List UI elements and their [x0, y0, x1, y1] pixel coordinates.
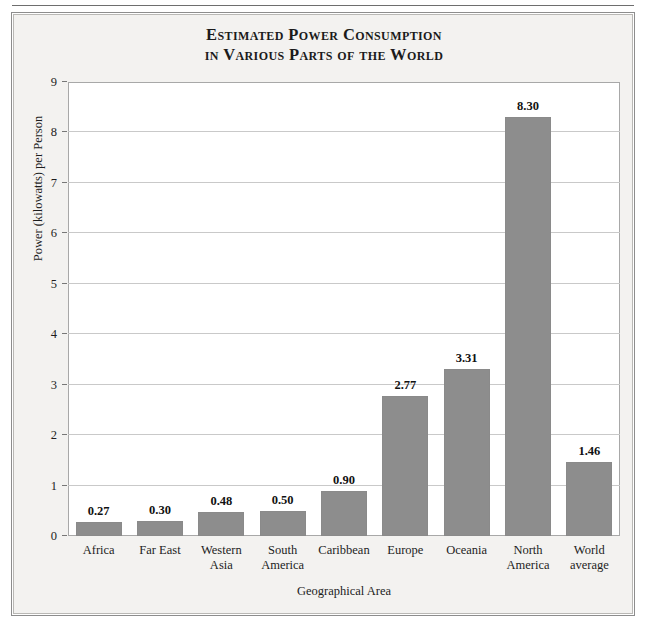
- x-axis-title: Geographical Area: [68, 584, 620, 599]
- x-axis-tick-label-line: America: [252, 558, 313, 573]
- x-axis-tick-label: Africa: [68, 543, 129, 558]
- chart-title-line-1: Estimated Power Consumption: [12, 25, 636, 45]
- bar-value-label: 2.77: [375, 378, 436, 393]
- y-axis-tick-label: 1: [51, 478, 57, 493]
- bar[interactable]: [505, 117, 551, 536]
- y-axis-tick-mark: [62, 535, 67, 536]
- y-axis-tick-mark: [62, 333, 67, 334]
- bars-layer: 0.27Africa0.30Far East0.48WesternAsia0.5…: [68, 82, 620, 536]
- bar[interactable]: [566, 462, 612, 536]
- x-axis-tick-label-line: World: [559, 543, 620, 558]
- bar[interactable]: [321, 491, 367, 536]
- bar[interactable]: [260, 511, 306, 536]
- x-axis-tick-label-line: average: [559, 558, 620, 573]
- bar-slot: 1.46Worldaverage: [559, 82, 620, 536]
- y-axis-tick-mark: [62, 232, 67, 233]
- y-axis-tick-mark: [62, 131, 67, 132]
- x-axis-tick-label: WesternAsia: [191, 543, 252, 573]
- y-axis-tick-label: 8: [51, 125, 57, 140]
- bar-value-label: 0.30: [129, 503, 190, 518]
- bar[interactable]: [444, 369, 490, 536]
- figure-frame: Estimated Power Consumption in Various P…: [11, 12, 635, 616]
- x-axis-tick-label-line: South: [252, 543, 313, 558]
- y-axis-tick-mark: [62, 485, 67, 486]
- x-axis-tick-label: Far East: [129, 543, 190, 558]
- page-top-rule: [12, 5, 634, 6]
- bar[interactable]: [198, 512, 244, 536]
- chart-title: Estimated Power Consumption in Various P…: [12, 25, 636, 65]
- bar-value-label: 1.46: [559, 444, 620, 459]
- y-axis-tick-mark: [62, 182, 67, 183]
- x-axis-tick-label-line: Caribbean: [313, 543, 374, 558]
- x-axis-tick-label: Caribbean: [313, 543, 374, 558]
- bar-slot: 3.31Oceania: [436, 82, 497, 536]
- x-axis-tick-label: Oceania: [436, 543, 497, 558]
- bar-value-label: 0.27: [68, 504, 129, 519]
- bar[interactable]: [76, 522, 122, 536]
- bar-value-label: 8.30: [497, 99, 558, 114]
- y-axis-tick-label: 5: [51, 276, 57, 291]
- y-axis-tick-label: 6: [51, 226, 57, 241]
- x-axis-tick-label-line: Europe: [375, 543, 436, 558]
- x-axis-tick-label-line: North: [497, 543, 558, 558]
- y-axis-tick-label: 3: [51, 377, 57, 392]
- bar-slot: 2.77Europe: [375, 82, 436, 536]
- y-axis-title: Power (kilowatts) per Person: [31, 59, 46, 319]
- y-axis-tick-label: 0: [51, 529, 57, 544]
- y-axis-tick-label: 4: [51, 327, 57, 342]
- y-axis-tick-label: 7: [51, 175, 57, 190]
- bar-value-label: 0.48: [191, 494, 252, 509]
- x-axis-tick-label-line: Far East: [129, 543, 190, 558]
- x-axis-tick-label: NorthAmerica: [497, 543, 558, 573]
- y-axis-tick-mark: [62, 384, 67, 385]
- x-axis-tick-label-line: Asia: [191, 558, 252, 573]
- bar[interactable]: [137, 521, 183, 536]
- chart-page: Estimated Power Consumption in Various P…: [0, 0, 646, 627]
- x-axis-tick-label-line: Oceania: [436, 543, 497, 558]
- y-axis-tick-label: 2: [51, 428, 57, 443]
- x-axis-tick-label-line: America: [497, 558, 558, 573]
- bar-slot: 0.27Africa: [68, 82, 129, 536]
- y-axis-tick-label: 9: [51, 75, 57, 90]
- bar-slot: 0.50SouthAmerica: [252, 82, 313, 536]
- x-axis-tick-label: SouthAmerica: [252, 543, 313, 573]
- bar-slot: 0.30Far East: [129, 82, 190, 536]
- chart-title-line-2: in Various Parts of the World: [12, 45, 636, 65]
- bar-value-label: 3.31: [436, 351, 497, 366]
- x-axis-tick-label: Europe: [375, 543, 436, 558]
- plot-wrapper: 0123456789 0.27Africa0.30Far East0.48Wes…: [68, 82, 620, 536]
- bar-slot: 0.48WesternAsia: [191, 82, 252, 536]
- x-axis-tick-label-line: Africa: [68, 543, 129, 558]
- bar-value-label: 0.90: [313, 473, 374, 488]
- x-axis-tick-label: Worldaverage: [559, 543, 620, 573]
- bar-slot: 0.90Caribbean: [313, 82, 374, 536]
- y-axis-tick-mark: [62, 434, 67, 435]
- y-axis-tick-mark: [62, 283, 67, 284]
- bar-value-label: 0.50: [252, 493, 313, 508]
- bar[interactable]: [382, 396, 428, 536]
- y-axis-tick-mark: [62, 81, 67, 82]
- x-axis-tick-label-line: Western: [191, 543, 252, 558]
- bar-slot: 8.30NorthAmerica: [497, 82, 558, 536]
